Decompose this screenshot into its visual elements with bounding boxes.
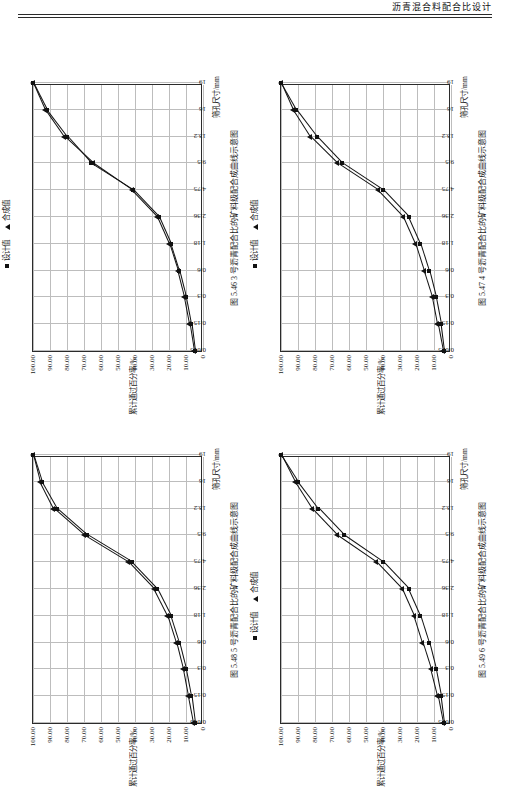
legend-item-synthesis: 合成值 — [248, 200, 259, 230]
gridline-vertical — [33, 162, 201, 163]
data-point-marker — [316, 507, 320, 511]
gridline-horizontal — [169, 457, 170, 723]
x-axis-label: 筛孔尺寸/mm — [210, 448, 221, 490]
gridline-vertical — [281, 162, 449, 163]
gridline-vertical — [281, 668, 449, 669]
y-axis-tick: 10.00 — [182, 727, 190, 743]
y-axis-tick: 60.00 — [345, 727, 353, 743]
data-point-marker — [189, 694, 193, 698]
y-axis-tick: 70.00 — [80, 727, 88, 743]
series-line-segment — [281, 83, 294, 110]
x-axis-tick: 13.2 — [442, 132, 454, 140]
data-point-marker — [191, 348, 196, 354]
gridline-vertical — [281, 350, 449, 351]
legend-label-design: 设计值 — [2, 240, 11, 261]
gridline-vertical — [33, 561, 201, 562]
gridline-horizontal — [33, 85, 34, 351]
gridline-horizontal — [67, 85, 68, 351]
series-line-segment — [281, 455, 295, 482]
gridline-vertical — [33, 481, 201, 482]
gridline-vertical — [281, 243, 449, 244]
series-line-segment — [40, 481, 54, 508]
x-axis-tick: 2.36 — [194, 212, 206, 220]
legend-item-design: 设计值 — [248, 612, 259, 640]
x-axis-tick: 0.6 — [197, 638, 206, 646]
x-axis-tick: 16 — [447, 105, 454, 113]
data-point-marker — [375, 187, 380, 193]
y-axis-tick: 90.00 — [46, 355, 54, 371]
data-point-marker — [428, 666, 433, 672]
gridline-vertical — [33, 695, 201, 696]
y-axis-label: 累计通过百分率/% — [378, 728, 386, 788]
gridline-vertical — [33, 588, 201, 589]
x-axis-tick: 0.6 — [445, 638, 454, 646]
x-axis-tick: 0.6 — [197, 266, 206, 274]
data-point-marker — [181, 294, 186, 300]
y-axis-tick: 60.00 — [345, 355, 353, 371]
data-point-marker — [173, 640, 178, 646]
data-point-marker — [440, 348, 445, 354]
gridline-vertical — [33, 722, 201, 723]
gridline-vertical — [33, 350, 201, 351]
page: 沥青混合料配合比设计 100.0090.0080.0070.0060.0050.… — [0, 0, 510, 798]
gridline-vertical — [33, 668, 201, 669]
x-axis-tick: 16 — [447, 477, 454, 485]
series-line-segment — [169, 244, 178, 271]
gridline-vertical — [281, 722, 449, 723]
y-axis-tick: 30.00 — [148, 727, 156, 743]
square-marker-icon — [5, 264, 9, 268]
y-axis-tick: 80.00 — [63, 727, 71, 743]
legend-label-design: 设计值 — [250, 612, 259, 633]
gridline-vertical — [281, 189, 449, 190]
legend-item-design: 设计值 — [248, 240, 259, 268]
x-axis-tick: 4.75 — [442, 185, 454, 193]
data-point-marker — [400, 214, 405, 220]
data-point-marker — [151, 586, 156, 592]
gridline-vertical — [33, 534, 201, 535]
x-axis-tick: 4.75 — [194, 185, 206, 193]
gridline-horizontal — [315, 457, 316, 723]
series-line-segment — [402, 589, 415, 616]
y-axis-tick: 30.00 — [396, 355, 404, 371]
data-point-marker — [50, 506, 55, 512]
gridline-horizontal — [101, 457, 102, 723]
y-axis-tick: 0 — [447, 727, 455, 731]
gridline-vertical — [281, 82, 449, 83]
x-axis-tick: 0.3 — [445, 292, 454, 300]
data-point-marker — [37, 479, 42, 485]
x-axis-tick: 16 — [199, 477, 206, 485]
gridline-horizontal — [332, 85, 333, 351]
data-point-marker — [407, 215, 411, 219]
chart-legend: 设计值合成值 — [0, 190, 11, 268]
data-point-marker — [190, 720, 195, 726]
gridline-horizontal — [332, 457, 333, 723]
gridline-vertical — [33, 615, 201, 616]
series-line-segment — [87, 535, 132, 563]
gridline-vertical — [281, 508, 449, 509]
data-point-marker — [166, 241, 171, 247]
gridline-vertical — [33, 136, 201, 137]
data-point-marker — [315, 135, 319, 139]
gridline-horizontal — [135, 457, 136, 723]
x-axis-label: 筛孔尺寸/mm — [458, 76, 469, 118]
series-line-segment — [171, 244, 180, 271]
x-axis-tick: 2.36 — [194, 584, 206, 592]
y-axis-tick: 20.00 — [165, 727, 173, 743]
x-axis-tick: 13.2 — [194, 132, 206, 140]
series-line-segment — [383, 190, 409, 217]
square-marker-icon — [253, 264, 257, 268]
x-axis-tick: 9.5 — [445, 530, 454, 538]
y-axis-tick: 30.00 — [396, 727, 404, 743]
x-axis-tick: 9.5 — [197, 158, 206, 166]
data-point-marker — [419, 640, 424, 646]
x-axis-tick: 0.15 — [442, 691, 454, 699]
gridline-vertical — [33, 82, 201, 83]
data-point-marker — [334, 160, 339, 166]
y-axis-tick: 50.00 — [114, 727, 122, 743]
x-axis-tick: 13.2 — [442, 504, 454, 512]
y-axis-tick: 90.00 — [294, 355, 302, 371]
legend-label-synthesis: 合成值 — [2, 200, 11, 221]
data-point-marker — [399, 586, 404, 592]
data-point-marker — [90, 160, 95, 166]
data-point-marker — [440, 720, 445, 726]
